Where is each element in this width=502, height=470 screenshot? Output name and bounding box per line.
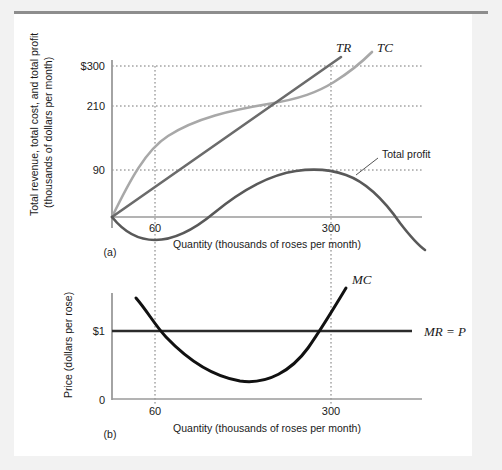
curve-label-total-profit: Total profit — [382, 148, 431, 160]
curve-label-mr: MR = P — [423, 324, 466, 339]
figure-background: $300 210 90 60 300 Total revenue, total … — [0, 0, 502, 470]
y-axis-title-a-line1: Total revenue, total cost, and total pro… — [28, 33, 40, 216]
curve-label-tr: TR — [336, 40, 351, 55]
curve-total-revenue — [112, 57, 341, 217]
panel-a: $300 210 90 60 300 Total revenue, total … — [28, 33, 431, 262]
ytick-label-1: $1 — [93, 325, 105, 337]
x-axis-title-a: Quantity (thousands of roses per month) — [173, 238, 361, 250]
economics-figure: $300 210 90 60 300 Total revenue, total … — [0, 0, 502, 470]
x-axis-title-b: Quantity (thousands of roses per month) — [173, 422, 361, 434]
panel-b: $1 0 60 300 Price (dollars per rose) Qua… — [62, 262, 466, 440]
curve-label-mc: MC — [351, 272, 372, 287]
ytick-label-300: $300 — [81, 60, 105, 72]
xtick-label-60-a: 60 — [149, 222, 161, 234]
ytick-label-210: 210 — [87, 100, 105, 112]
xtick-label-300-b: 300 — [322, 405, 340, 417]
y-axis-title-a-line2: (thousands of dollars per month) — [42, 57, 54, 208]
ytick-label-90: 90 — [93, 164, 105, 176]
curve-marginal-cost — [136, 288, 346, 382]
leader-line-total-profit — [356, 158, 378, 175]
curve-label-tc: TC — [377, 40, 393, 55]
y-axis-title-b: Price (dollars per rose) — [62, 292, 74, 398]
panel-tag-a: (a) — [104, 246, 117, 258]
xtick-label-60-b: 60 — [149, 405, 161, 417]
panel-tag-b: (b) — [104, 428, 117, 440]
xtick-label-300-a: 300 — [322, 222, 340, 234]
ytick-label-0: 0 — [99, 394, 105, 406]
